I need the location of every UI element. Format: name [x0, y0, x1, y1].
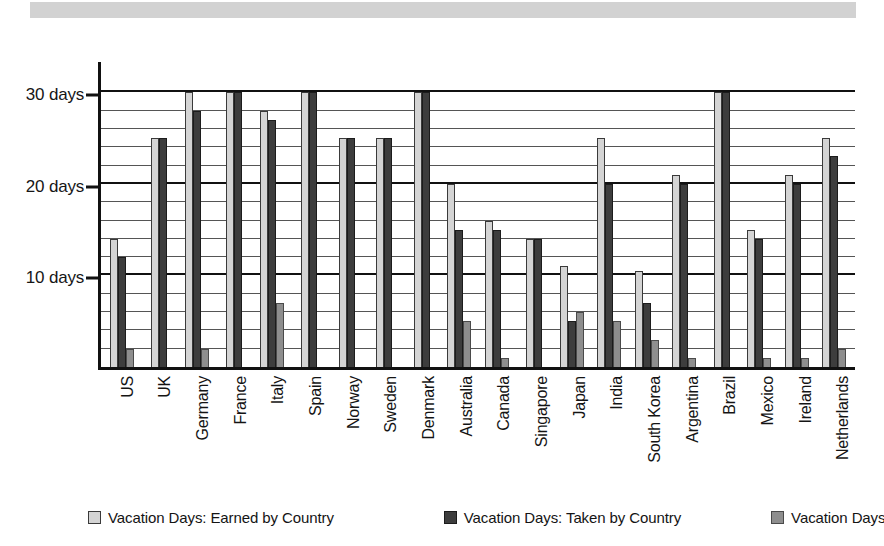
bar-taken	[309, 92, 317, 367]
bar-group	[103, 77, 141, 367]
x-axis-label: Australia	[458, 376, 476, 436]
bar-unused	[763, 358, 771, 367]
x-label-slot: Denmark	[401, 372, 439, 502]
bar-groups	[101, 77, 855, 367]
x-label-slot: Brazil	[703, 372, 741, 502]
x-label-slot: UK	[138, 372, 176, 502]
plot-area	[98, 77, 855, 370]
bar-earned	[822, 138, 830, 367]
legend-swatch-unused	[771, 511, 784, 524]
x-label-slot: Spain	[288, 372, 326, 502]
bar-group	[253, 77, 291, 367]
y-tick-label-30: 30 days	[26, 85, 84, 105]
x-axis-label: US	[119, 376, 137, 398]
bar-taken	[605, 184, 613, 367]
bar-earned	[635, 271, 643, 367]
bar-group	[366, 77, 404, 367]
legend-item[interactable]: Vacation Days: Unused	[771, 509, 884, 526]
bar-group	[703, 77, 741, 367]
bar-group	[141, 77, 179, 367]
x-label-slot: South Korea	[627, 372, 665, 502]
bar-taken	[534, 239, 542, 367]
bar-taken	[234, 92, 242, 367]
bar-taken	[493, 230, 501, 367]
x-label-slot: Italy	[251, 372, 289, 502]
x-label-slot: Germany	[175, 372, 213, 502]
bar-earned	[526, 239, 534, 367]
legend-item[interactable]: Vacation Days: Earned by Country	[88, 509, 334, 526]
bar-taken	[118, 257, 126, 367]
bar-taken	[455, 230, 463, 367]
bar-taken	[347, 138, 355, 367]
bar-earned	[447, 184, 455, 367]
bar-earned	[785, 175, 793, 367]
x-axis-label: Ireland	[797, 376, 815, 424]
x-axis-label: Denmark	[420, 376, 438, 440]
bar-group	[216, 77, 254, 367]
bar-earned	[376, 138, 384, 367]
bar-unused	[463, 321, 471, 367]
legend-item[interactable]: Vacation Days: Taken by Country	[444, 509, 681, 526]
bar-group	[553, 77, 591, 367]
x-axis-label: Norway	[345, 376, 363, 429]
bar-earned	[151, 138, 159, 367]
bar-group	[403, 77, 441, 367]
x-axis: USUKGermanyFranceItalySpainNorwaySwedenD…	[98, 372, 855, 502]
x-axis-label: Singapore	[533, 376, 551, 447]
bar-group	[328, 77, 366, 367]
bar-earned	[301, 92, 309, 367]
bar-earned	[714, 92, 722, 367]
x-axis-label: Argentina	[684, 376, 702, 443]
x-axis-label: France	[232, 376, 250, 425]
scan-artifact-band	[30, 2, 856, 18]
bar-unused	[276, 303, 284, 367]
bar-group	[628, 77, 666, 367]
y-tick-label-10: 10 days	[26, 268, 84, 288]
bar-group	[516, 77, 554, 367]
bar-taken	[755, 239, 763, 367]
bar-taken	[830, 156, 838, 367]
x-axis-label: Germany	[194, 376, 212, 440]
x-axis-label: Brazil	[721, 376, 739, 415]
bar-unused	[126, 349, 134, 367]
x-label-slot: Sweden	[364, 372, 402, 502]
bar-group	[666, 77, 704, 367]
x-label-slot: US	[100, 372, 138, 502]
bar-earned	[747, 230, 755, 367]
bar-unused	[613, 321, 621, 367]
bar-group	[816, 77, 854, 367]
bar-taken	[422, 92, 430, 367]
bar-chart-figure: 10 days20 days30 days USUKGermanyFranceI…	[0, 40, 884, 546]
x-label-slot: Ireland	[778, 372, 816, 502]
bar-taken	[643, 303, 651, 367]
y-axis: 10 days20 days30 days	[0, 40, 92, 380]
x-label-slot: Netherlands	[815, 372, 853, 502]
bar-earned	[672, 175, 680, 367]
legend-swatch-taken	[444, 511, 457, 524]
bar-taken	[680, 184, 688, 367]
x-axis-label: India	[608, 376, 626, 410]
chart-legend: Vacation Days: Earned by CountryVacation…	[88, 502, 878, 532]
x-label-slot: India	[590, 372, 628, 502]
bar-group	[291, 77, 329, 367]
x-label-slot: Japan	[552, 372, 590, 502]
bar-unused	[501, 358, 509, 367]
x-axis-label: South Korea	[646, 376, 664, 463]
bar-unused	[576, 312, 584, 367]
y-tick-label-20: 20 days	[26, 177, 84, 197]
bar-unused	[688, 358, 696, 367]
x-axis-label: Japan	[571, 376, 589, 419]
legend-label: Vacation Days: Unused	[791, 509, 884, 526]
x-label-slot: Australia	[439, 372, 477, 502]
bar-earned	[597, 138, 605, 367]
chart-page: 10 days20 days30 days USUKGermanyFranceI…	[0, 0, 884, 546]
bar-unused	[201, 349, 209, 367]
x-label-slot: Canada	[477, 372, 515, 502]
x-label-slot: Argentina	[665, 372, 703, 502]
bar-taken	[568, 321, 576, 367]
x-label-slot: Norway	[326, 372, 364, 502]
x-label-slot: Mexico	[740, 372, 778, 502]
bar-earned	[226, 92, 234, 367]
bar-group	[478, 77, 516, 367]
bar-taken	[193, 111, 201, 367]
